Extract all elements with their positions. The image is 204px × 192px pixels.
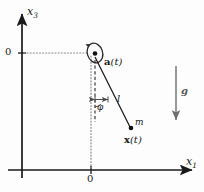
mass-point — [129, 126, 134, 131]
horizontal-origin-label: 0 — [87, 174, 93, 184]
pivot-label: a(t) — [104, 57, 122, 67]
pivot-orbit-arrow — [86, 44, 91, 48]
position-label: x(t) — [124, 135, 142, 145]
rod-length-label: l — [117, 94, 120, 104]
pendulum-diagram: x3 x1 0 0 a(t) l φ m x(t) g — [0, 0, 204, 192]
pivot-point — [93, 51, 98, 56]
pendulum-rod — [95, 57, 130, 127]
diagram-canvas — [0, 0, 204, 192]
vertical-origin-label: 0 — [5, 47, 11, 57]
vertical-axis-label: x3 — [27, 6, 38, 20]
horizontal-axis-label: x1 — [186, 156, 197, 170]
mass-label: m — [135, 118, 144, 127]
gravity-label: g — [181, 86, 188, 96]
angle-label: φ — [97, 103, 103, 112]
